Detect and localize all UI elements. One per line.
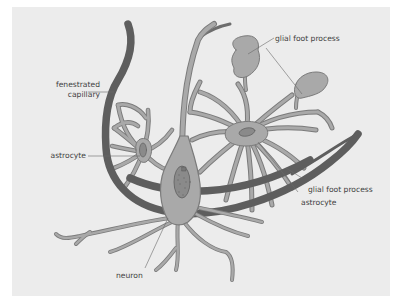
label-fenestrated-capillary: fenestrated capillary <box>44 80 100 100</box>
label-fenestrated-text: fenestrated <box>44 80 100 90</box>
label-glial-foot-process-right: glial foot process <box>308 185 373 195</box>
label-capillary-text: capillary <box>44 90 100 100</box>
astrocyte-left-nucleus <box>140 143 147 157</box>
glial-foot-process-2 <box>294 72 327 98</box>
label-neuron: neuron <box>116 271 143 281</box>
label-glial-foot-process-top: glial foot process <box>275 34 340 44</box>
glial-foot-process-1 <box>232 36 260 78</box>
neuron-nucleolus <box>182 167 186 171</box>
label-astrocyte-left: astrocyte <box>44 151 86 161</box>
label-astrocyte-right: astrocyte <box>301 198 337 208</box>
